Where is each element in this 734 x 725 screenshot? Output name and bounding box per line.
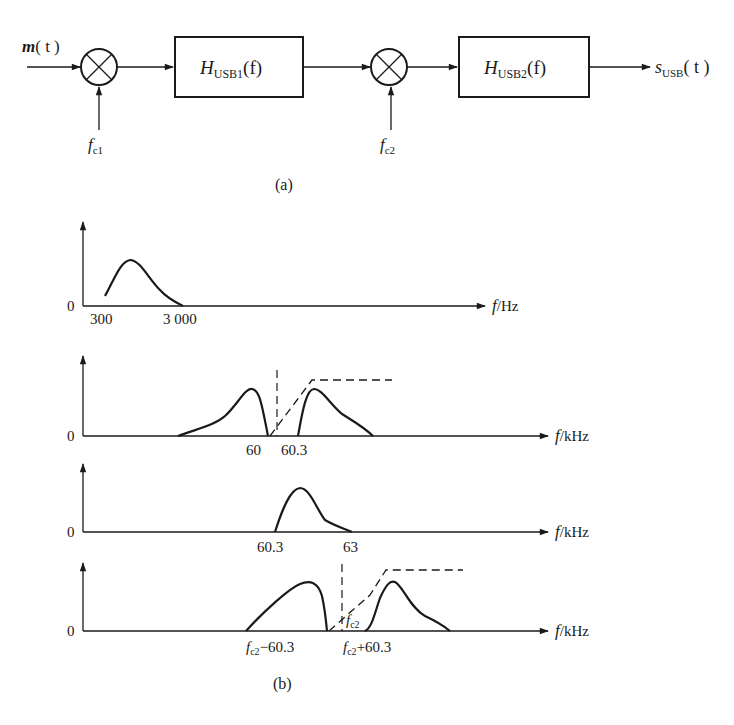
ssb-modulation-figure: m( t ) fc1 HUSB1(f) fc2 [0,0,734,725]
usb-curve [298,389,373,436]
tick-label: 3 000 [163,311,197,327]
x-axis-label: f/Hz [492,296,519,315]
tick-label: fc2+60.3 [343,639,391,657]
zero-label: 0 [67,428,75,444]
lsb-curve [178,389,268,436]
usb-curve [365,582,450,631]
tick-label: 60.3 [281,442,307,458]
input-signal-label: m( t ) [22,37,60,56]
spectrum-plot-fc2: 0 fc2 fc2−60.3 fc2+60.3 f/kHz [67,563,589,657]
caption-b: (b) [273,675,292,693]
mixer-1-icon [81,49,117,85]
mixer-2-icon [371,49,407,85]
spectrum-plot-usb1-output: 0 60.3 63 f/kHz [67,464,589,555]
tick-label: fc2−60.3 [246,639,294,657]
lo1-label: fc1 [88,135,103,156]
usb1-spectrum-curve [275,488,352,532]
caption-a: (a) [275,176,293,194]
lo2-label: fc2 [380,135,395,156]
baseband-spectrum-curve [105,260,183,306]
fc2-center-label: fc2 [346,612,360,630]
spectrum-plot-dsb-60k: 0 60 60.3 f/kHz [67,356,589,458]
filter-usb1-response [270,380,392,436]
filter-usb1-label: HUSB1(f) [199,57,262,81]
tick-label: 300 [90,311,113,327]
zero-label: 0 [67,524,75,540]
tick-label: 63 [343,539,358,555]
zero-label: 0 [67,623,75,639]
x-axis-label: f/kHz [555,426,589,445]
block-diagram: m( t ) fc1 HUSB1(f) fc2 [22,37,709,194]
spectrum-plot-baseband: 0 300 3 000 f/Hz [67,222,519,327]
tick-label: 60.3 [257,539,283,555]
output-signal-label: sUSB( t ) [655,57,709,79]
x-axis-label: f/kHz [555,522,589,541]
tick-label: 60 [246,442,261,458]
lsb-curve [246,582,327,631]
x-axis-label: f/kHz [555,621,589,640]
zero-label: 0 [67,298,75,314]
filter-usb2-label: HUSB2(f) [483,57,546,81]
